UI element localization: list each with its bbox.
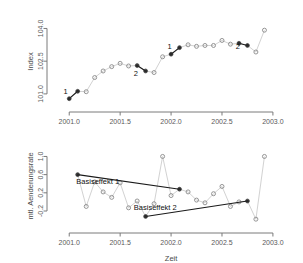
panel-bottom: 2001.02001.52002.02002.52003.0-0.20.20.6… <box>26 151 284 263</box>
trend-label: 1 <box>167 42 171 51</box>
x-tick-label: 2002.0 <box>160 239 182 246</box>
trend-endpoint <box>76 90 79 93</box>
trend-endpoint <box>136 64 139 67</box>
x-tick-label: 2002.5 <box>211 118 233 125</box>
trend-segment: Basiseffekt 1 <box>76 173 181 191</box>
y-tick-label: 104.0 <box>37 20 44 38</box>
trend-label: 2 <box>236 42 240 51</box>
y-tick-label: 1.0 <box>37 151 44 161</box>
x-tick-label: 2001.0 <box>59 239 81 246</box>
trend-endpoint <box>144 215 147 218</box>
x-tick-label: 2001.5 <box>109 239 131 246</box>
trend-endpoint <box>76 173 79 176</box>
trend-endpoint <box>178 188 181 191</box>
x-tick-label: 2003.0 <box>262 118 284 125</box>
trend-segment: 1 <box>167 42 181 56</box>
y-axis-title: Index <box>26 52 35 71</box>
x-tick-label: 2003.0 <box>262 239 284 246</box>
y-tick-label: 101.0 <box>37 85 44 103</box>
x-tick-label: 2001.0 <box>59 118 81 125</box>
figure-panel: 2001.02001.52002.02002.52003.0101.0102.5… <box>0 0 303 263</box>
trend-endpoint <box>246 44 249 47</box>
trend-endpoint <box>246 199 249 202</box>
trend-label: Basiseffekt 1 <box>76 177 119 186</box>
series-polyline <box>69 30 264 98</box>
trend-segment: 2 <box>134 64 147 78</box>
y-axis-title: mtl. Aenderungsrate <box>26 152 35 219</box>
trend-label: 1 <box>64 87 68 96</box>
x-tick-label: 2002.5 <box>211 239 233 246</box>
trend-endpoint <box>68 97 71 100</box>
x-tick-label: 2001.5 <box>109 118 131 125</box>
trend-endpoint <box>178 46 181 49</box>
trend-label: Basiseffekt 2 <box>134 203 177 212</box>
y-tick-label: 102.5 <box>37 52 44 70</box>
trend-endpoint <box>144 69 147 72</box>
y-tick-label: 0.2 <box>37 188 44 198</box>
trend-segment: Basiseffekt 2 <box>134 199 249 218</box>
trend-endpoint <box>169 53 172 56</box>
x-tick-label: 2002.0 <box>160 118 182 125</box>
two-panel-timeseries-chart: 2001.02001.52002.02002.52003.0101.0102.5… <box>0 0 303 263</box>
y-tick-label: 0.6 <box>37 170 44 180</box>
trend-label: 2 <box>134 69 138 78</box>
data-points <box>67 28 266 100</box>
y-tick-label: -0.2 <box>37 205 44 217</box>
x-axis-title: Zeit <box>165 254 178 263</box>
panel-top: 2001.02001.52002.02002.52003.0101.0102.5… <box>26 20 284 125</box>
